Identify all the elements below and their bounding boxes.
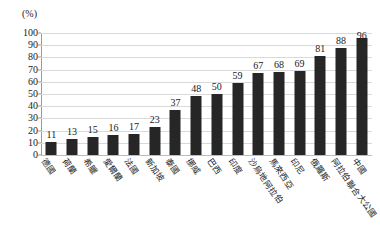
bar-value-label: 67 — [253, 61, 263, 71]
bar[interactable] — [170, 110, 181, 155]
bar-slot[interactable]: 15 — [82, 33, 103, 155]
bar-slot[interactable]: 37 — [165, 33, 186, 155]
bar[interactable] — [294, 71, 305, 155]
x-axis-category-label: 新加坡 — [143, 157, 166, 184]
bar-slot[interactable]: 81 — [310, 33, 331, 155]
bar[interactable] — [46, 142, 57, 155]
x-axis-category-label: 中國 — [350, 157, 367, 177]
bar[interactable] — [232, 83, 243, 155]
bar[interactable] — [335, 48, 346, 155]
bar-slot[interactable]: 96 — [351, 33, 372, 155]
x-axis-category-label: 俄羅斯 — [309, 157, 332, 184]
bar-value-label: 23 — [150, 115, 160, 125]
bar-slot[interactable]: 67 — [248, 33, 269, 155]
y-axis-tick-label: 50 — [28, 89, 38, 99]
x-axis-category-label: 印度 — [226, 157, 243, 177]
bar-value-label: 16 — [108, 123, 118, 133]
bar-slot[interactable]: 23 — [144, 33, 165, 155]
bar-value-label: 59 — [233, 71, 243, 81]
x-axis-category-label: 德國 — [40, 157, 57, 177]
bar[interactable] — [315, 56, 326, 155]
y-axis-tick-label: 40 — [28, 101, 38, 111]
y-axis-tick-label: 20 — [28, 126, 38, 136]
bar-slot[interactable]: 17 — [124, 33, 145, 155]
x-axis-category-label: 法國 — [123, 157, 140, 177]
x-axis-category-label: 挪威 — [185, 157, 202, 177]
y-axis-tick-label: 10 — [28, 138, 38, 148]
bar[interactable] — [67, 139, 78, 155]
bar-value-label: 50 — [212, 82, 222, 92]
x-axis-category-label: 希臘 — [81, 157, 98, 177]
bar-slot[interactable]: 13 — [62, 33, 83, 155]
bar[interactable] — [149, 127, 160, 155]
bar-slot[interactable]: 59 — [227, 33, 248, 155]
y-axis-tick-label: 100 — [23, 28, 38, 38]
y-axis-tick-label: 80 — [28, 52, 38, 62]
bar-slot[interactable]: 48 — [186, 33, 207, 155]
plot-area: 11131516172337485059676869818896 — [41, 33, 372, 155]
y-axis-tick-label: 70 — [28, 65, 38, 75]
bar[interactable] — [191, 96, 202, 155]
bar-value-label: 17 — [129, 122, 139, 132]
x-axis-category-label: 泰國 — [164, 157, 181, 177]
bar[interactable] — [108, 135, 119, 155]
y-axis-tick-label: 60 — [28, 77, 38, 87]
y-axis-tick-label: 30 — [28, 113, 38, 123]
bar[interactable] — [356, 38, 367, 155]
bar-value-label: 15 — [88, 125, 98, 135]
bar-value-label: 11 — [47, 130, 57, 140]
y-axis-tick-labels: 0102030405060708090100 — [0, 33, 38, 155]
bar-value-label: 13 — [67, 127, 77, 137]
bar[interactable] — [87, 137, 98, 155]
bar-slot[interactable]: 11 — [41, 33, 62, 155]
bar-chart: (%) 0102030405060708090100 1113151617233… — [0, 0, 380, 248]
x-axis-category-label: 巴西 — [205, 157, 222, 177]
bar-value-label: 68 — [274, 60, 284, 70]
y-axis-unit-label: (%) — [22, 8, 37, 19]
bar-slot[interactable]: 16 — [103, 33, 124, 155]
y-axis-tick-label: 90 — [28, 40, 38, 50]
x-axis-category-label: 印尼 — [288, 157, 305, 177]
bar-series: 11131516172337485059676869818896 — [41, 33, 372, 155]
x-axis-category-label: 愛爾蘭 — [102, 157, 125, 184]
bar-value-label: 48 — [191, 84, 201, 94]
bar-value-label: 96 — [357, 31, 367, 41]
bar[interactable] — [211, 94, 222, 155]
bar-slot[interactable]: 50 — [207, 33, 228, 155]
bar[interactable] — [253, 73, 264, 155]
x-axis-category-label: 荷蘭 — [61, 157, 78, 177]
bar-value-label: 88 — [336, 36, 346, 46]
gridline — [41, 155, 372, 156]
bar-value-label: 81 — [315, 44, 325, 54]
bar-value-label: 37 — [170, 98, 180, 108]
bar[interactable] — [273, 72, 284, 155]
bar-value-label: 69 — [295, 59, 305, 69]
bar-slot[interactable]: 88 — [331, 33, 352, 155]
x-axis-category-labels: 德國荷蘭希臘愛爾蘭法國新加坡泰國挪威巴西印度沙烏地阿拉伯馬來西亞印尼俄羅斯阿拉伯… — [41, 157, 372, 248]
bar-slot[interactable]: 69 — [289, 33, 310, 155]
bar[interactable] — [129, 134, 140, 155]
bar-slot[interactable]: 68 — [269, 33, 290, 155]
